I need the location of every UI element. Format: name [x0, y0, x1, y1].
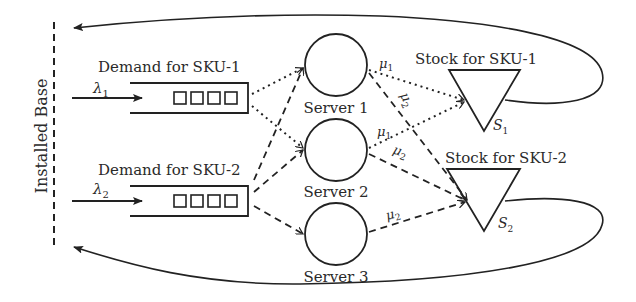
route-sku2-server3: [254, 206, 303, 234]
stock-sku2-level: S2: [498, 215, 513, 234]
demand-sku2-label: Demand for SKU-2: [98, 161, 241, 179]
stock-sku1-level: S1: [493, 117, 508, 136]
mu-s2-sku1: μ1: [377, 124, 391, 141]
queue-sku1: [130, 83, 248, 113]
route-sku1-server2: [252, 106, 303, 148]
service-s3-sku2: [369, 202, 465, 232]
server-3: [305, 203, 367, 265]
mu-s2-sku2: μ2: [390, 142, 409, 163]
mu-s3-sku2: μ2: [384, 205, 402, 225]
mu-s1-sku1: μ1: [379, 56, 393, 73]
route-sku1-server1: [252, 68, 303, 94]
server-2: [305, 119, 367, 181]
service-s1-sku1: [369, 70, 464, 100]
mu-s1-sku2: μ2: [395, 90, 416, 110]
diagram-canvas: Installed Base Demand for SKU-1 λ1 Deman…: [0, 0, 636, 302]
server-1: [305, 34, 367, 96]
lambda1-label: λ1: [92, 79, 109, 99]
route-sku2-server2: [254, 150, 303, 192]
stock-sku1-label: Stock for SKU-1: [415, 50, 537, 68]
installed-base-label: Installed Base: [32, 79, 51, 194]
server-1-label: Server 1: [303, 99, 368, 117]
server-2-label: Server 2: [303, 183, 368, 201]
server-3-label: Server 3: [303, 268, 368, 286]
stock-sku2-label: Stock for SKU-2: [445, 149, 567, 167]
route-sku2-server1: [254, 68, 303, 180]
queue-sku2: [130, 186, 248, 216]
lambda2-label: λ2: [92, 180, 109, 200]
demand-sku1-label: Demand for SKU-1: [98, 58, 241, 76]
